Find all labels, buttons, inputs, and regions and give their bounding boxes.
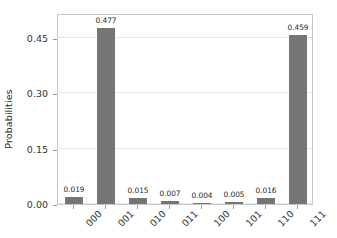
- x-axis-tick-mark: [169, 205, 170, 209]
- bar[interactable]: [225, 202, 243, 204]
- bar-value-label: 0.477: [90, 17, 122, 25]
- bar-value-label: 0.004: [186, 192, 218, 200]
- y-axis-tick-mark: [53, 205, 57, 206]
- x-axis-tick-mark: [137, 205, 138, 209]
- bar-value-label: 0.007: [154, 190, 186, 198]
- x-axis-tick-label: 110: [275, 208, 296, 229]
- y-axis-tick-label: 0.15: [14, 145, 48, 155]
- x-axis-tick-mark: [233, 205, 234, 209]
- x-axis-tick-label: 111: [307, 208, 328, 229]
- bar-value-label: 0.016: [250, 187, 282, 195]
- bar-chart-figure: Probabilities 0.000.150.300.45 0.0190.47…: [0, 0, 337, 238]
- x-axis-tick-label: 000: [83, 208, 104, 229]
- bar-value-label: 0.015: [122, 187, 154, 195]
- x-axis-tick-label: 101: [243, 208, 264, 229]
- y-axis-tick-label: 0.30: [14, 89, 48, 99]
- x-axis-tick-label: 001: [115, 208, 136, 229]
- x-axis-tick-mark: [265, 205, 266, 209]
- plot-area: 0.0190.4770.0150.0070.0040.0050.0160.459: [57, 14, 313, 205]
- bar[interactable]: [193, 203, 211, 205]
- bar[interactable]: [65, 197, 83, 204]
- x-axis-tick-mark: [105, 205, 106, 209]
- bar[interactable]: [289, 35, 307, 204]
- x-axis-tick-mark: [73, 205, 74, 209]
- y-axis-tick-label: 0.45: [14, 34, 48, 44]
- y-axis-tick-label: 0.00: [14, 200, 48, 210]
- x-axis-tick-label: 100: [211, 208, 232, 229]
- bar[interactable]: [257, 198, 275, 204]
- x-axis-tick-mark: [297, 205, 298, 209]
- bar[interactable]: [161, 201, 179, 204]
- bar-value-label: 0.005: [218, 191, 250, 199]
- bar[interactable]: [129, 198, 147, 204]
- x-axis-tick-mark: [201, 205, 202, 209]
- x-axis-tick-label: 011: [179, 208, 200, 229]
- x-axis-tick-label: 010: [147, 208, 168, 229]
- bar-value-label: 0.019: [58, 186, 90, 194]
- bar-value-label: 0.459: [282, 24, 314, 32]
- bar[interactable]: [97, 28, 115, 204]
